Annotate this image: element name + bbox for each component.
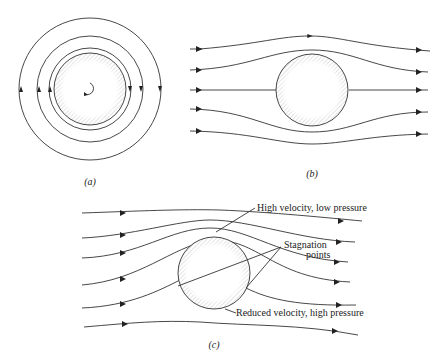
flow-diagram: (a) (b) — [0, 0, 445, 361]
streamline — [190, 131, 428, 144]
panel-b: (b) — [190, 36, 430, 180]
label-points: points — [306, 249, 331, 260]
leader-line — [216, 208, 255, 232]
label-reduced-velocity: Reduced velocity, high pressure — [236, 307, 364, 318]
caption-a: (a) — [84, 176, 96, 188]
leader-line — [225, 309, 236, 313]
streamline — [190, 36, 430, 51]
panel-a: (a) — [19, 18, 162, 188]
caption-b: (b) — [306, 168, 318, 180]
panel-c: High velocity, low pressure Stagnation p… — [82, 202, 367, 351]
caption-c: (c) — [208, 339, 220, 351]
label-high-velocity: High velocity, low pressure — [257, 202, 367, 213]
